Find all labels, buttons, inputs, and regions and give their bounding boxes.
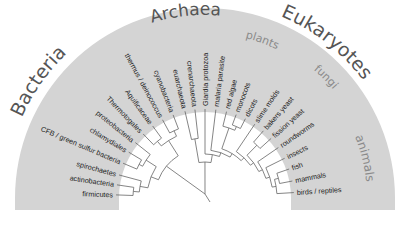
branch bbox=[247, 145, 257, 155]
branch bbox=[119, 175, 141, 181]
branch bbox=[129, 152, 142, 160]
branch bbox=[143, 134, 153, 145]
root-stub bbox=[205, 194, 210, 202]
branch bbox=[275, 178, 279, 179]
branch bbox=[241, 158, 244, 161]
leaf-label: Giardia protozoa bbox=[201, 53, 210, 106]
branch bbox=[195, 139, 199, 163]
branch bbox=[259, 170, 263, 172]
branch bbox=[139, 164, 143, 166]
branch bbox=[236, 124, 254, 151]
branch bbox=[219, 153, 220, 157]
branch bbox=[258, 148, 279, 162]
branch bbox=[135, 143, 150, 155]
branch bbox=[272, 186, 276, 187]
gray-band-right-foot bbox=[291, 198, 395, 210]
branch bbox=[169, 141, 179, 156]
branch bbox=[185, 111, 192, 139]
tree-canvas: firmicutesactinobacteriaspirochaetesCFB … bbox=[0, 0, 411, 232]
branch bbox=[230, 154, 232, 157]
branch bbox=[151, 177, 158, 180]
branch bbox=[133, 191, 139, 192]
branch bbox=[123, 163, 137, 169]
phylogenetic-tree-diagram: firmicutesactinobacteriaspirochaetesCFB … bbox=[0, 0, 411, 232]
branch bbox=[140, 186, 148, 187]
branch bbox=[266, 177, 270, 178]
branch bbox=[250, 163, 253, 165]
branch bbox=[254, 131, 264, 142]
branch bbox=[235, 127, 237, 131]
branch bbox=[195, 110, 198, 139]
branch bbox=[163, 120, 170, 133]
leaf-label: firmicutes bbox=[82, 189, 113, 199]
branch bbox=[222, 128, 229, 149]
branch bbox=[211, 155, 212, 163]
branch bbox=[174, 131, 177, 136]
branch bbox=[211, 110, 216, 151]
branch bbox=[266, 158, 285, 167]
root-branch-bacteria bbox=[166, 166, 205, 194]
branch bbox=[260, 138, 271, 148]
branch bbox=[146, 160, 156, 166]
branch bbox=[153, 126, 162, 138]
gray-band-left-foot bbox=[15, 198, 119, 210]
branch bbox=[157, 141, 161, 146]
